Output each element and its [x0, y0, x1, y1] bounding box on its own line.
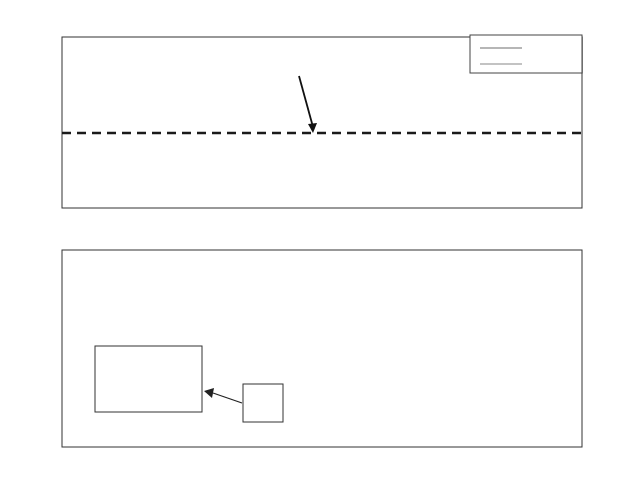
- legend-box: [470, 35, 582, 73]
- zoom-arrowhead-icon: [204, 388, 214, 398]
- inset-axes-box: [95, 346, 202, 412]
- inset-plot: [95, 346, 202, 412]
- zoom-arrow-icon: [213, 393, 242, 403]
- reference-arrow-icon: [299, 76, 313, 127]
- zoom-region-box: [243, 384, 283, 422]
- reference-arrowhead-icon: [308, 123, 317, 133]
- figure: [0, 0, 619, 489]
- legend: [470, 35, 582, 73]
- output-plot: [62, 35, 582, 208]
- control-signal-plot: [62, 250, 582, 447]
